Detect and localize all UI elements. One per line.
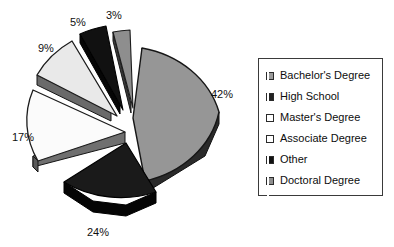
- data-label-associate: 9%: [38, 42, 54, 54]
- legend-item-associate[interactable]: Associate Degree: [259, 128, 382, 149]
- legend-swatch-icon-bachelors: [266, 72, 274, 80]
- legend-swatch-icon-masters: [266, 114, 274, 122]
- pie-slice-top-bachelors: [133, 48, 219, 181]
- legend-swatch-icon-doctoral: [266, 177, 274, 185]
- data-label-other: 5%: [70, 16, 86, 28]
- pie-chart-plot-area: 42% 24% 17% 9% 5% 3%: [0, 0, 258, 247]
- legend-item-masters[interactable]: Master's Degree: [259, 107, 382, 128]
- legend-label-masters: Master's Degree: [280, 112, 360, 123]
- legend-label-highschool: High School: [280, 91, 339, 102]
- pie-chart-page: 42% 24% 17% 9% 5% 3% Bachelor's Degree H…: [0, 0, 394, 247]
- legend-item-doctoral[interactable]: Doctoral Degree: [259, 170, 382, 191]
- legend-label-doctoral: Doctoral Degree: [280, 175, 360, 186]
- legend-label-other: Other: [280, 154, 308, 165]
- chart-legend: Bachelor's Degree High School Master's D…: [258, 58, 383, 196]
- legend-item-bachelors[interactable]: Bachelor's Degree: [259, 65, 382, 86]
- pie-chart-graphic: [0, 0, 258, 247]
- legend-swatch-icon-highschool: [266, 93, 274, 101]
- legend-label-bachelors: Bachelor's Degree: [280, 70, 370, 81]
- data-label-highschool: 24%: [87, 226, 109, 238]
- legend-swatch-icon-associate: [266, 135, 274, 143]
- legend-item-other[interactable]: Other: [259, 149, 382, 170]
- data-label-masters: 17%: [12, 131, 34, 143]
- legend-label-associate: Associate Degree: [280, 133, 367, 144]
- legend-swatch-icon-other: [266, 156, 274, 164]
- data-label-bachelors: 42%: [211, 88, 233, 100]
- data-label-doctoral: 3%: [106, 9, 122, 21]
- legend-item-highschool[interactable]: High School: [259, 86, 382, 107]
